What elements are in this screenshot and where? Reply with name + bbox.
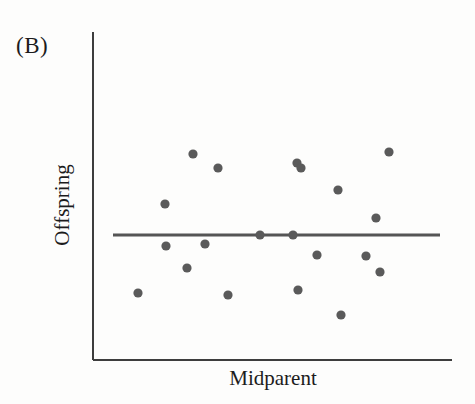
scatter-point	[296, 163, 305, 172]
scatter-point	[160, 199, 169, 208]
scatter-point	[182, 263, 191, 272]
scatter-point	[161, 241, 170, 250]
scatter-point	[213, 163, 222, 172]
scatter-point	[133, 288, 142, 297]
scatter-point	[375, 267, 384, 276]
scatter-point	[384, 147, 393, 156]
scatter-plot-figure: (B) Offspring Midparent	[0, 0, 475, 404]
scatter-point	[223, 290, 232, 299]
scatter-point	[255, 230, 264, 239]
scatter-point	[188, 149, 197, 158]
scatter-point	[361, 251, 370, 260]
scatter-point	[293, 285, 302, 294]
scatter-point	[336, 310, 345, 319]
axis-lines	[93, 32, 452, 360]
plot-canvas	[0, 0, 475, 404]
scatter-point	[312, 250, 321, 259]
scatter-point	[371, 213, 380, 222]
scatter-point	[200, 239, 209, 248]
scatter-point	[288, 230, 297, 239]
scatter-point	[333, 185, 342, 194]
